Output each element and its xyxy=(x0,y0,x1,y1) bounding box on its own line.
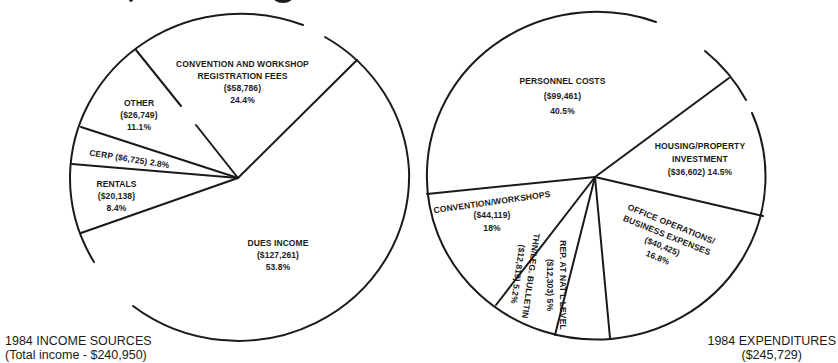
slice-amount: ($20,138) xyxy=(84,190,149,202)
slice-percent: 40.5% xyxy=(515,104,610,119)
slice-amount: ($99,461) xyxy=(515,89,610,104)
slice-label-personnel: PERSONNEL COSTS ($99,461) 40.5% xyxy=(515,74,610,119)
income-caption: 1984 INCOME SOURCES (Total income - $240… xyxy=(5,334,152,362)
divider-other-conv-b xyxy=(196,125,238,178)
slice-percent: 24.4% xyxy=(160,94,325,106)
slice-label-dues: DUES INCOME ($127,261) 53.8% xyxy=(238,237,318,273)
divider-conv-personnel xyxy=(427,177,595,194)
slice-label-rentals: RENTALS ($20,138) 8.4% xyxy=(84,178,149,214)
pie-charts-figure: CONVENTION AND WORKSHOP REGISTRATION FEE… xyxy=(0,0,838,363)
expenditures-caption: 1984 EXPENDITURES ($245,729) xyxy=(707,334,836,362)
slice-label-rep-natl: REP. AT NAT'L LEVEL ($12,303) 5% xyxy=(543,225,569,345)
expenditures-chart-total: ($245,729) xyxy=(707,348,836,362)
slice-amount: ($127,261) xyxy=(238,249,318,261)
slice-amount-percent: ($36,602) 14.5% xyxy=(640,166,760,179)
label-line: PERSONNEL COSTS xyxy=(515,74,610,89)
expenditures-chart-title: 1984 EXPENDITURES xyxy=(707,334,836,348)
label-line: HOUSING/PROPERTY xyxy=(640,140,760,153)
income-chart-total: (Total income - $240,950) xyxy=(5,348,152,362)
label-line: DUES INCOME xyxy=(238,237,318,249)
slice-label-convention-workshops: CONVENTION/WORKSHOPS ($44,119) 18% xyxy=(432,196,552,235)
divider-office-rep xyxy=(595,177,610,338)
slice-amount: ($26,749) xyxy=(104,109,174,121)
label-line: REGISTRATION FEES xyxy=(160,70,325,82)
slice-label-housing: HOUSING/PROPERTY INVESTMENT ($36,602) 14… xyxy=(640,140,760,179)
slice-percent: 18% xyxy=(432,222,552,235)
income-chart-title: 1984 INCOME SOURCES xyxy=(5,334,152,348)
slice-percent: 53.8% xyxy=(238,261,318,273)
expend-pie-outline-right xyxy=(705,51,746,100)
slice-amount: ($58,786) xyxy=(160,82,325,94)
slice-percent: 8.4% xyxy=(84,202,149,214)
slice-label-convention-fees: CONVENTION AND WORKSHOP REGISTRATION FEE… xyxy=(160,58,325,106)
slice-label-other: OTHER ($26,749) 11.1% xyxy=(104,97,174,133)
slice-amount-percent: ($12,303) 5% xyxy=(543,225,556,345)
slice-percent: 11.1% xyxy=(104,121,174,133)
label-line: RENTALS xyxy=(84,178,149,190)
label-line: CONVENTION AND WORKSHOP xyxy=(160,58,325,70)
label-line: OTHER xyxy=(104,97,174,109)
label-line: REP. AT NAT'L LEVEL xyxy=(556,225,569,345)
label-line: INVESTMENT xyxy=(640,153,760,166)
